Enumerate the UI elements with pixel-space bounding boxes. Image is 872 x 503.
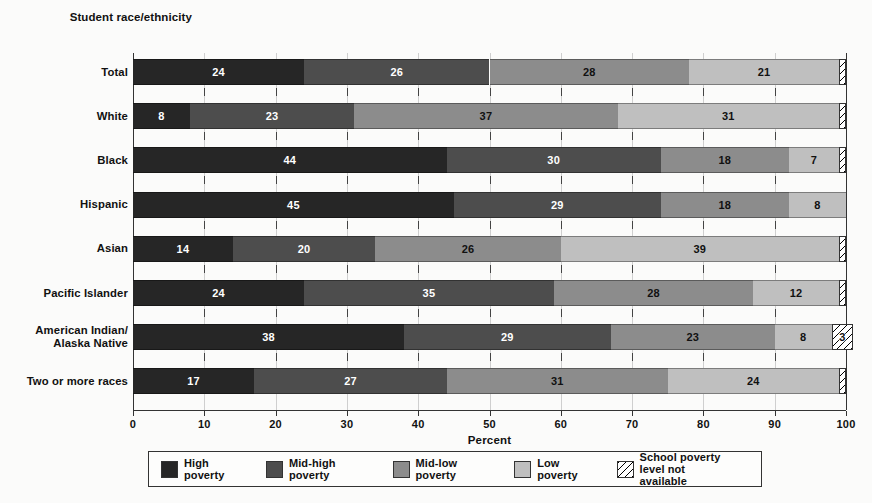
gridline-tick — [347, 353, 348, 361]
gridline-tick — [703, 221, 704, 229]
bar-row: 14202639 — [0, 236, 872, 262]
bar-value-label: 17 — [187, 375, 200, 387]
bar-value-label: 35 — [423, 287, 436, 299]
x-axis-tick — [490, 411, 491, 416]
bar-value-label: 26 — [390, 66, 403, 78]
legend-item[interactable]: High poverty — [161, 457, 252, 481]
bar-value-label: 8 — [158, 110, 164, 122]
bar-segment: 8 — [133, 103, 190, 129]
legend-label: School poverty level not available — [640, 451, 735, 487]
bar-segment: 8 — [775, 324, 832, 350]
bar-value-label: 7 — [811, 154, 817, 166]
legend-label: Mid-high poverty — [289, 457, 379, 481]
gridline-tick — [276, 353, 277, 361]
gridline-tick — [775, 221, 776, 229]
gridline-tick — [632, 132, 633, 140]
x-axis-tick-label: 20 — [256, 418, 296, 430]
bar-segment: 8 — [789, 192, 846, 218]
gridline-tick — [347, 176, 348, 184]
legend-swatch-icon — [266, 461, 283, 478]
bar-segment: 31 — [618, 103, 839, 129]
bar-segment — [839, 103, 846, 129]
bar-value-label: 20 — [298, 243, 311, 255]
bar-value-label: 12 — [790, 287, 803, 299]
legend-label: Low poverty — [537, 457, 602, 481]
bar-row: 24352812 — [0, 280, 872, 306]
bar-row: 24262821 — [0, 59, 872, 85]
bar-segment: 18 — [661, 147, 789, 173]
bar-segment — [839, 59, 846, 85]
bar-value-label: 28 — [647, 287, 660, 299]
legend-item[interactable]: Low poverty — [514, 457, 602, 481]
gridline-tick — [276, 176, 277, 184]
x-axis-tick — [418, 411, 419, 416]
bar-value-label: 24 — [212, 66, 225, 78]
bar-segment: 24 — [668, 368, 839, 394]
legend-swatch-icon — [514, 461, 531, 478]
gridline-tick — [632, 176, 633, 184]
bar-value-label: 23 — [266, 110, 279, 122]
bar-segment: 14 — [133, 236, 233, 262]
gridline-tick — [561, 221, 562, 229]
bar-value-label: 29 — [501, 331, 514, 343]
bar-segment: 35 — [304, 280, 554, 306]
y-axis-title: Student race/ethnicity — [20, 10, 192, 24]
gridline-tick — [561, 132, 562, 140]
bar-value-label: 31 — [722, 110, 735, 122]
chart-legend: High povertyMid-high povertyMid-low pove… — [148, 451, 762, 487]
bar-row: 8233731 — [0, 103, 872, 129]
gridline-tick — [775, 132, 776, 140]
stacked-bar-chart: Student race/ethnicity TotalWhiteBlackHi… — [0, 0, 872, 503]
x-axis-tick-label: 70 — [612, 418, 652, 430]
gridline-tick — [775, 309, 776, 317]
legend-swatch-icon — [617, 461, 634, 478]
legend-item[interactable]: Mid-high poverty — [266, 457, 379, 481]
bar-segment: 3 — [832, 324, 853, 350]
x-axis-tick-label: 60 — [541, 418, 581, 430]
bar-segment: 12 — [753, 280, 839, 306]
gridline-tick — [703, 265, 704, 273]
bar-value-label: 29 — [551, 199, 564, 211]
legend-item[interactable]: School poverty level not available — [617, 451, 735, 487]
gridline-tick — [418, 309, 419, 317]
x-axis-tick — [703, 411, 704, 416]
bar-value-label: 14 — [177, 243, 190, 255]
bar-segment: 23 — [611, 324, 775, 350]
gridline-tick — [775, 88, 776, 96]
gridline-tick — [490, 309, 491, 317]
x-axis-title: Percent — [133, 434, 846, 446]
x-axis-tick — [775, 411, 776, 416]
gridline-tick — [703, 176, 704, 184]
x-axis-tick — [276, 411, 277, 416]
gridline-tick — [561, 353, 562, 361]
x-axis-tick-label: 90 — [755, 418, 795, 430]
bar-value-label: 45 — [287, 199, 300, 211]
gridline-tick — [418, 221, 419, 229]
gridline-tick — [276, 88, 277, 96]
bar-segment: 28 — [490, 59, 690, 85]
bar-value-label: 30 — [547, 154, 560, 166]
gridline-tick — [561, 309, 562, 317]
gridline-tick — [632, 353, 633, 361]
bar-value-label: 38 — [262, 331, 275, 343]
bar-segment: 27 — [254, 368, 447, 394]
bar-segment: 29 — [404, 324, 611, 350]
gridline-tick — [347, 132, 348, 140]
gridline-tick — [204, 132, 205, 140]
gridline-tick — [276, 132, 277, 140]
bar-value-label: 18 — [718, 199, 731, 211]
gridline-tick — [561, 88, 562, 96]
gridline-tick — [775, 176, 776, 184]
gridline-tick — [347, 88, 348, 96]
legend-swatch-icon — [393, 461, 410, 478]
bar-value-label: 24 — [212, 287, 225, 299]
gridline-tick — [204, 353, 205, 361]
gridline-tick — [703, 353, 704, 361]
bar-segment: 44 — [133, 147, 447, 173]
bar-segment: 20 — [233, 236, 376, 262]
gridline-tick — [204, 176, 205, 184]
bar-segment: 31 — [447, 368, 668, 394]
legend-item[interactable]: Mid-low poverty — [393, 457, 501, 481]
x-axis-tick-label: 100 — [826, 418, 866, 430]
bar-row: 38292383 — [0, 324, 872, 350]
